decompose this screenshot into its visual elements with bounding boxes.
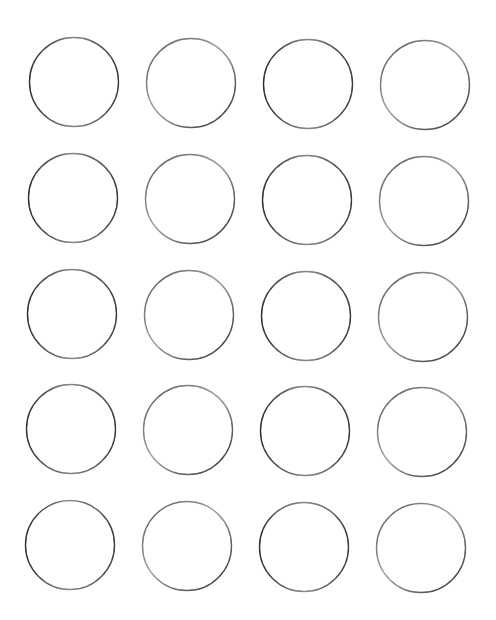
circle-label-r5-c3 bbox=[260, 503, 349, 592]
circle-label-r3-c3 bbox=[262, 272, 351, 361]
circle-label-r5-c1 bbox=[26, 501, 115, 590]
circle-label-r1-c1 bbox=[30, 38, 119, 127]
circle-label-r1-c4 bbox=[381, 41, 470, 130]
circle-label-r3-c1 bbox=[28, 270, 117, 359]
circle-label-r2-c4 bbox=[380, 157, 469, 246]
circle-label-r5-c2 bbox=[143, 502, 232, 591]
circle-label-sheet bbox=[0, 0, 496, 620]
circle-label-r5-c4 bbox=[377, 504, 466, 593]
circle-label-r1-c2 bbox=[147, 39, 236, 128]
circle-label-r4-c4 bbox=[378, 388, 467, 477]
circle-label-r1-c3 bbox=[264, 40, 353, 129]
circle-label-r4-c2 bbox=[144, 386, 233, 475]
circle-group bbox=[26, 38, 470, 593]
circle-label-r2-c1 bbox=[29, 154, 118, 243]
circle-label-r4-c1 bbox=[27, 385, 116, 474]
circle-label-r2-c2 bbox=[146, 155, 235, 244]
circle-grid bbox=[0, 0, 496, 620]
circle-label-r3-c2 bbox=[145, 271, 234, 360]
circle-label-r2-c3 bbox=[263, 156, 352, 245]
circle-label-r3-c4 bbox=[379, 273, 468, 362]
circle-label-r4-c3 bbox=[261, 387, 350, 476]
